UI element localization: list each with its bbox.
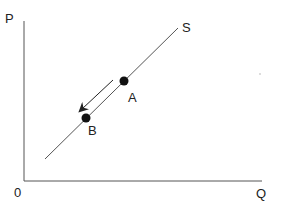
point-b-label: B	[88, 123, 97, 138]
point-a-label: A	[128, 90, 137, 105]
origin-label: 0	[14, 185, 21, 200]
supply-curve-label: S	[182, 20, 191, 35]
x-axis-label: Q	[256, 186, 266, 201]
movement-arrow-icon	[82, 80, 113, 109]
supply-diagram: P 0 Q S A B	[0, 0, 281, 209]
supply-curve	[45, 28, 178, 159]
y-axis-label: P	[5, 11, 14, 26]
point-b	[82, 114, 91, 123]
point-a	[120, 77, 129, 86]
